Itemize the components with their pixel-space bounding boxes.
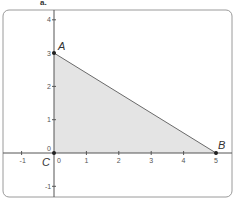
y-tick-label: 4 [47, 16, 51, 23]
y-tick-label: 2 [47, 83, 51, 90]
point-b-label: B [218, 139, 225, 151]
y-tick-label: 3 [47, 50, 51, 57]
point-b [214, 151, 218, 155]
y-tick-label: 0 [47, 145, 51, 152]
point-a-label: A [57, 40, 65, 52]
x-tick-label: 5 [214, 157, 218, 164]
point-c [52, 151, 56, 155]
x-tick-label: 4 [182, 157, 186, 164]
x-tick-label: 2 [117, 157, 121, 164]
point-c-label: C [42, 156, 50, 168]
y-tick-label: -1 [45, 183, 51, 190]
x-tick-label: 3 [149, 157, 153, 164]
x-tick-label: -1 [20, 157, 26, 164]
point-a [52, 51, 56, 55]
x-tick-label: 1 [84, 157, 88, 164]
figure-label: a. [40, 0, 47, 7]
coordinate-plane-figure: a. -1012345 -101234 A B C [0, 0, 235, 202]
y-tick-label: 1 [47, 116, 51, 123]
x-tick-label: 0 [57, 157, 61, 164]
